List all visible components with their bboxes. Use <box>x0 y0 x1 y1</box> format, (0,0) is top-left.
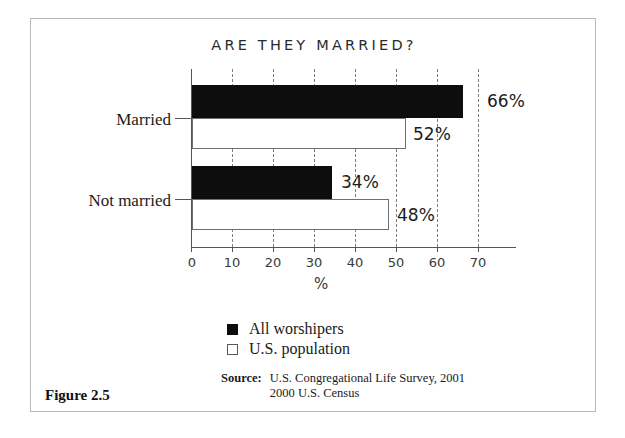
x-axis-unit-label: % <box>314 275 328 293</box>
x-tick-label-10: 10 <box>224 255 241 270</box>
tick-60 <box>437 247 438 252</box>
legend-swatch-filled-icon <box>227 324 238 335</box>
tick-30 <box>314 247 315 252</box>
bar-not-married-all-worshipers <box>192 166 332 199</box>
tick-10 <box>232 247 233 252</box>
source-line-2: 2000 U.S. Census <box>270 386 360 400</box>
x-axis-line <box>191 247 516 248</box>
bar-married-us-population <box>192 118 406 149</box>
tick-50 <box>396 247 397 252</box>
tick-20 <box>273 247 274 252</box>
bar-value-not-married-us-population: 48% <box>397 205 435 225</box>
source-line-1: U.S. Congregational Life Survey, 2001 <box>270 371 465 385</box>
legend-label-all-worshipers: All worshipers <box>249 320 344 338</box>
bar-married-all-worshipers <box>192 85 463 118</box>
source-lines: U.S. Congregational Life Survey, 2001200… <box>270 371 465 401</box>
category-label-not-married: Not married <box>59 191 171 211</box>
bar-value-not-married-all-worshipers: 34% <box>341 172 379 192</box>
x-tick-label-60: 60 <box>429 255 446 270</box>
legend-item-all-worshipers: All worshipers <box>227 319 350 339</box>
x-tick-label-0: 0 <box>188 255 196 270</box>
legend-label-us-population: U.S. population <box>249 340 350 358</box>
tick-70 <box>478 247 479 252</box>
legend-swatch-open-icon <box>227 344 238 355</box>
bar-not-married-us-population <box>192 199 389 230</box>
figure-caption: Figure 2.5 <box>45 387 110 404</box>
chart-title: ARE THEY MARRIED? <box>31 37 597 53</box>
tick-40 <box>355 247 356 252</box>
leader-line-not-married <box>175 199 192 200</box>
gridline-70 <box>478 69 479 247</box>
plot-area: 0 10 20 30 40 50 60 70 % 66% 52% 34% 48% <box>191 69 478 247</box>
leader-line-married <box>175 118 192 119</box>
chart-legend: All worshipers U.S. population <box>227 319 350 359</box>
source-note: Source:U.S. Congregational Life Survey, … <box>221 371 465 401</box>
bar-value-married-us-population: 52% <box>413 124 451 144</box>
x-tick-label-40: 40 <box>347 255 364 270</box>
legend-item-us-population: U.S. population <box>227 339 350 359</box>
tick-0 <box>191 247 192 252</box>
figure-frame: ARE THEY MARRIED? 0 10 20 30 40 50 60 70… <box>30 18 596 412</box>
x-tick-label-70: 70 <box>470 255 487 270</box>
x-tick-label-50: 50 <box>388 255 405 270</box>
category-label-married: Married <box>81 110 171 130</box>
x-tick-label-20: 20 <box>265 255 282 270</box>
source-label: Source: <box>221 371 262 385</box>
bar-value-married-all-worshipers: 66% <box>487 91 525 111</box>
x-tick-label-30: 30 <box>306 255 323 270</box>
